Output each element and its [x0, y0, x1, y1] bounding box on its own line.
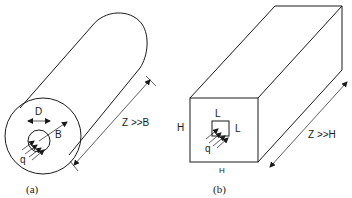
panel-b-prism: L L q H H Z >>H (b)	[177, 6, 347, 196]
label-l-top: L	[215, 108, 221, 119]
length-arrow-b	[270, 82, 347, 167]
caption-b: (b)	[213, 183, 226, 196]
label-b: B	[55, 129, 62, 140]
label-z-h: Z >>H	[308, 129, 336, 140]
caption-a: (a)	[26, 183, 39, 196]
cylinder-top-edge	[20, 26, 92, 108]
extension-line-bottom-a	[70, 161, 78, 171]
extension-line-top-a	[146, 76, 156, 86]
panel-a-cylinder: D B q Z >>B (a)	[5, 13, 156, 196]
label-h-side: H	[177, 122, 184, 133]
cylinder-far-end-arc	[92, 13, 147, 68]
diagram-canvas: D B q Z >>B (a) L L	[0, 0, 352, 198]
front-face-square	[190, 98, 258, 162]
label-q-b: q	[205, 143, 211, 154]
cylinder-bottom-edge	[69, 68, 140, 155]
label-q-a: q	[20, 154, 26, 165]
label-d: D	[35, 106, 42, 117]
label-z-b: Z >>B	[122, 117, 150, 128]
label-h-bottom: H	[219, 166, 225, 175]
outer-circle	[5, 98, 81, 174]
dimension-arrow-b	[39, 122, 67, 141]
label-l-side: L	[235, 123, 241, 134]
prism-top-face	[190, 6, 342, 98]
